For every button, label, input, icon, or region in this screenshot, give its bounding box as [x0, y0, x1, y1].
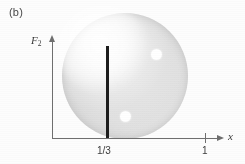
boundary-bar-at-one-third: [106, 46, 109, 139]
x-axis-tick-mark-one: [205, 133, 206, 143]
y-axis-label-text: F: [31, 34, 38, 46]
y-axis-label: F2: [31, 34, 41, 48]
x-tick-label-one-third: 1/3: [97, 145, 111, 156]
panel-label: (b): [9, 6, 23, 18]
y-axis-line: [52, 41, 53, 139]
shaded-region-highlight: [57, 5, 150, 93]
lower-white-spot: [120, 111, 131, 122]
x-axis-line: [52, 138, 219, 139]
figure-panel-b: (b) F2 x 1/3 1: [0, 0, 245, 164]
x-axis-arrow-icon: [217, 135, 224, 141]
y-axis-arrow-icon: [49, 35, 55, 42]
x-axis-label: x: [228, 130, 233, 142]
y-axis-label-subscript: 2: [38, 39, 42, 48]
x-tick-label-one: 1: [202, 145, 208, 156]
upper-white-spot: [151, 49, 162, 60]
